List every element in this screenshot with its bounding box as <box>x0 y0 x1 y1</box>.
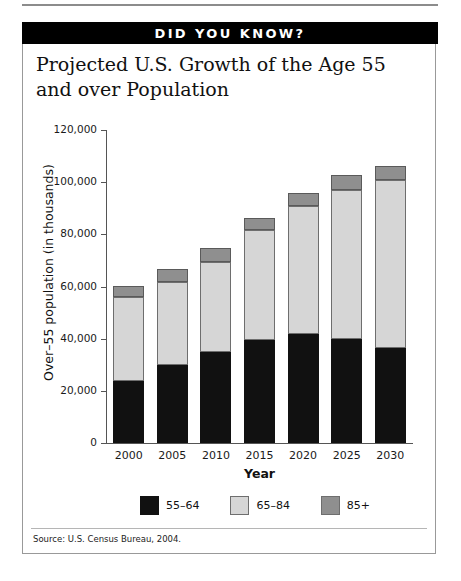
bar-2015[interactable] <box>244 218 275 443</box>
bar-segment-55-64 <box>375 348 406 443</box>
plot-area <box>107 130 412 443</box>
bar-segment-65-84 <box>200 262 231 352</box>
x-axis-title: Year <box>107 466 412 481</box>
legend-swatch-icon <box>230 496 249 515</box>
bar-segment-65-84 <box>113 297 144 381</box>
y-axis-tick-label-text: 0 <box>36 436 97 448</box>
legend-label: 55–64 <box>166 499 200 512</box>
legend-swatch-icon <box>321 496 340 515</box>
top-divider <box>22 4 438 6</box>
bar-segment-55-64 <box>200 352 231 443</box>
bar-segment-55-64 <box>113 381 144 443</box>
bar-2020[interactable] <box>288 193 319 443</box>
y-axis-tick-label-text: 20,000 <box>36 384 97 396</box>
bar-segment-85plus <box>331 175 362 190</box>
bar-segment-65-84 <box>157 282 188 365</box>
x-axis-tick-label: 2030 <box>360 449 420 462</box>
y-axis-tick <box>101 443 107 444</box>
bar-segment-85plus <box>157 269 188 282</box>
legend-item[interactable]: 55–64 <box>140 496 200 515</box>
y-axis-title: Over–55 population (in thousands) <box>41 163 56 383</box>
legend-label: 65–84 <box>256 499 290 512</box>
chart-legend: 55–6465–8485+ <box>140 496 370 515</box>
legend-label: 85+ <box>347 499 370 512</box>
bar-segment-55-64 <box>157 365 188 443</box>
bar-segment-65-84 <box>375 180 406 348</box>
bar-segment-65-84 <box>288 206 319 334</box>
bar-segment-55-64 <box>244 340 275 443</box>
bar-segment-85plus <box>113 286 144 297</box>
x-axis-line <box>106 443 413 444</box>
source-note: Source: U.S. Census Bureau, 2004. <box>33 534 181 544</box>
bar-segment-85plus <box>375 166 406 180</box>
bar-2010[interactable] <box>200 248 231 443</box>
bar-segment-85plus <box>244 218 275 230</box>
bar-segment-65-84 <box>244 230 275 340</box>
banner-label: DID YOU KNOW? <box>154 26 305 41</box>
bar-segment-55-64 <box>331 339 362 443</box>
did-you-know-banner: DID YOU KNOW? <box>22 22 438 44</box>
legend-swatch-icon <box>140 496 159 515</box>
bar-segment-65-84 <box>331 190 362 339</box>
chart-title: Projected U.S. Growth of the Age 55 and … <box>36 52 406 102</box>
bar-segment-85plus <box>200 248 231 262</box>
bar-2025[interactable] <box>331 175 362 443</box>
y-axis-tick-label-text: 120,000 <box>36 123 97 135</box>
bar-segment-55-64 <box>288 334 319 443</box>
bar-2030[interactable] <box>375 166 406 443</box>
source-divider <box>31 528 427 529</box>
figure-panel: DID YOU KNOW? Projected U.S. Growth of t… <box>0 0 461 581</box>
legend-item[interactable]: 85+ <box>321 496 370 515</box>
bar-2005[interactable] <box>157 269 188 443</box>
bar-2000[interactable] <box>113 286 144 443</box>
legend-item[interactable]: 65–84 <box>230 496 290 515</box>
bar-segment-85plus <box>288 193 319 206</box>
